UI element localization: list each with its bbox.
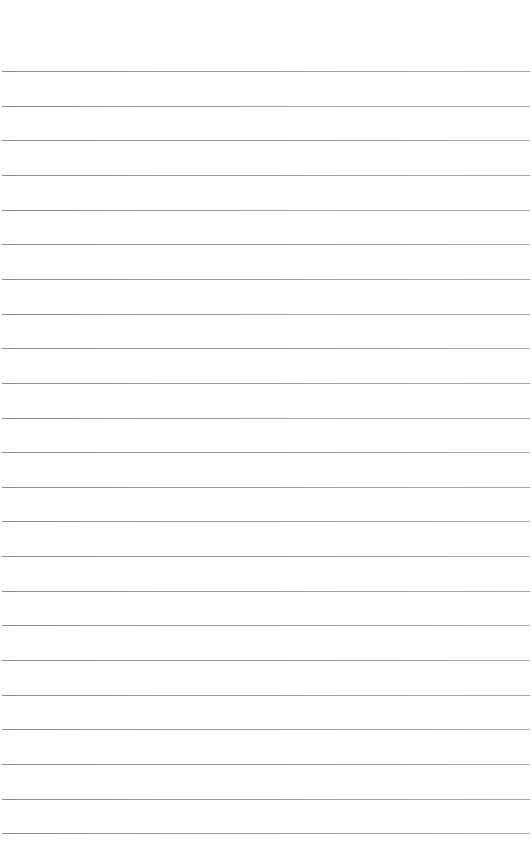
ruled-line (2, 799, 530, 800)
lined-paper-sheet (0, 0, 532, 866)
ruled-line (2, 140, 530, 141)
ruled-line (2, 521, 530, 522)
ruled-line (2, 71, 530, 72)
ruled-line (2, 660, 530, 661)
ruled-line (2, 106, 530, 107)
ruled-line (2, 591, 530, 592)
ruled-line (2, 244, 530, 245)
ruled-line (2, 418, 530, 419)
ruled-line (2, 314, 530, 315)
ruled-line (2, 764, 530, 765)
ruled-line (2, 487, 530, 488)
ruled-line (2, 695, 530, 696)
ruled-line (2, 729, 530, 730)
ruled-line (2, 210, 530, 211)
ruled-line (2, 348, 530, 349)
ruled-line (2, 833, 530, 834)
ruled-line (2, 175, 530, 176)
ruled-line (2, 279, 530, 280)
ruled-line (2, 383, 530, 384)
ruled-line (2, 556, 530, 557)
ruled-line (2, 452, 530, 453)
ruled-line (2, 625, 530, 626)
